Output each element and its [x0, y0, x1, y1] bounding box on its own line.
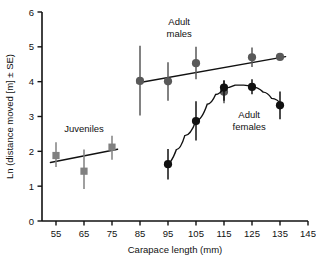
x-tick-label-65: 65 — [79, 228, 90, 239]
data-point — [248, 83, 256, 91]
x-tick-label-85: 85 — [135, 228, 146, 239]
x-tick-label-125: 125 — [244, 228, 260, 239]
data-point — [164, 77, 172, 85]
series-adult-females — [164, 79, 284, 179]
y-tick-label-1: 1 — [29, 181, 34, 192]
data-point — [248, 53, 256, 61]
y-tick-label-3: 3 — [29, 111, 34, 122]
series-juveniles — [50, 136, 117, 189]
x-tick-label-105: 105 — [188, 228, 204, 239]
data-point — [276, 53, 284, 61]
x-tick-label-55: 55 — [51, 228, 62, 239]
x-tick-label-75: 75 — [107, 228, 118, 239]
data-point — [276, 101, 284, 109]
fit-line-adult-males — [137, 57, 285, 83]
y-tick-label-2: 2 — [29, 146, 34, 157]
series-adult-males — [136, 46, 286, 116]
y-axis-title: Ln (distance moved [m] ± SE) — [4, 54, 15, 179]
x-tick-label-115: 115 — [216, 228, 231, 239]
data-point — [108, 144, 115, 151]
data-point — [164, 160, 172, 168]
y-tick-label-5: 5 — [29, 41, 34, 52]
annotation-label: Adult — [238, 109, 260, 120]
annotation-juveniles: Juveniles — [64, 123, 104, 134]
data-point — [136, 77, 144, 85]
annotation-label: Adult — [168, 16, 190, 27]
y-tick-label-6: 6 — [29, 7, 34, 18]
annotation-label: males — [167, 28, 193, 39]
data-point — [192, 59, 200, 67]
annotation-label: females — [233, 121, 267, 132]
y-tick-label-0: 0 — [29, 216, 34, 227]
chart-canvas: 01234565565758595105115125135145Carapace… — [0, 0, 316, 265]
data-point — [80, 168, 87, 175]
figure-container: 01234565565758595105115125135145Carapace… — [0, 0, 316, 265]
annotation-adult-females: Adultfemales — [233, 109, 267, 132]
y-tick-label-4: 4 — [29, 76, 34, 87]
x-axis-title: Carapace length (mm) — [128, 244, 223, 255]
annotation-adult-males: Adultmales — [167, 16, 193, 39]
x-tick-label-145: 145 — [300, 228, 316, 239]
data-point — [52, 152, 59, 159]
data-point — [192, 117, 200, 125]
x-tick-label-95: 95 — [163, 228, 174, 239]
data-point — [220, 83, 228, 91]
annotation-label: Juveniles — [64, 123, 104, 134]
x-tick-label-135: 135 — [272, 228, 288, 239]
